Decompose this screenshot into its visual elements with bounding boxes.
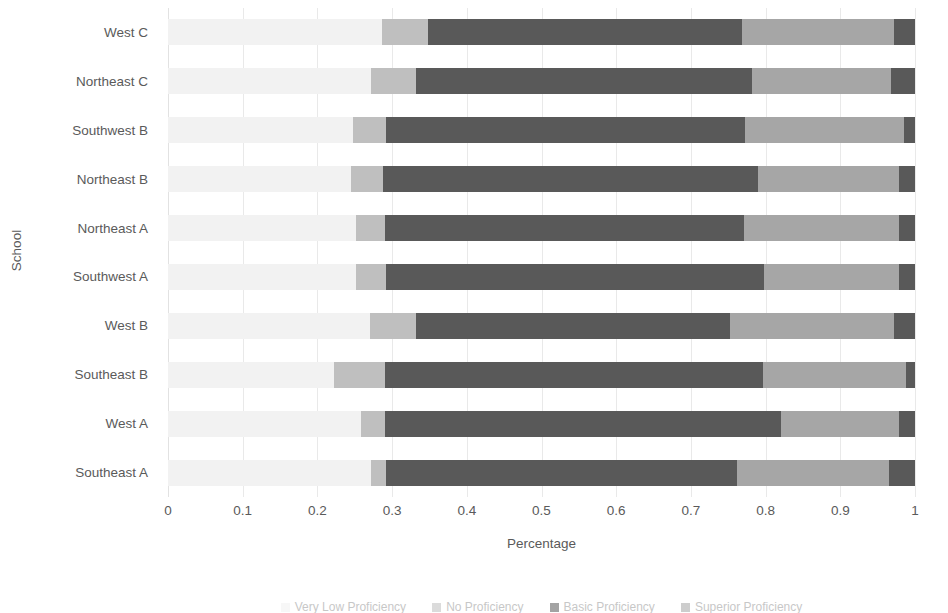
bar-track (168, 68, 915, 94)
bar-segment-3[interactable] (386, 264, 764, 290)
plot-area (168, 8, 915, 497)
bar-row[interactable] (168, 8, 915, 57)
x-axis-tick-label: 1 (911, 503, 919, 518)
y-axis-tick-label: Southwest B (72, 106, 148, 155)
bar-segment-2[interactable] (356, 264, 386, 290)
bar-segment-1[interactable] (168, 264, 356, 290)
bar-row[interactable] (168, 155, 915, 204)
bar-row[interactable] (168, 399, 915, 448)
bar-segment-1[interactable] (168, 166, 351, 192)
bar-track (168, 411, 915, 437)
x-axis-tick-label: 0.7 (682, 503, 701, 518)
x-axis-tick-label: 0.9 (831, 503, 850, 518)
y-axis-tick-label: Southwest A (73, 253, 148, 302)
legend-swatch-icon (681, 603, 690, 612)
x-axis-tick-label: 0.6 (607, 503, 626, 518)
bar-track (168, 362, 915, 388)
bar-row[interactable] (168, 448, 915, 497)
bar-segment-2[interactable] (353, 117, 386, 143)
legend-item[interactable]: Very Low Proficiency (281, 601, 406, 613)
y-axis-tick-label: Northeast B (77, 155, 148, 204)
x-axis-tick-label: 0.1 (233, 503, 252, 518)
bar-track (168, 460, 915, 486)
legend-label: No Proficiency (446, 601, 523, 613)
bar-segment-4[interactable] (758, 166, 898, 192)
y-axis-tick-label: Northeast C (76, 57, 148, 106)
bar-segment-2[interactable] (351, 166, 383, 192)
legend-swatch-icon (550, 603, 559, 612)
legend-swatch-icon (432, 603, 441, 612)
legend-label: Basic Proficiency (564, 601, 655, 613)
bar-segment-4[interactable] (764, 264, 898, 290)
chart-legend: Very Low ProficiencyNo ProficiencyBasic … (168, 601, 915, 613)
bar-segment-5[interactable] (894, 313, 915, 339)
bar-track (168, 19, 915, 45)
bar-segment-1[interactable] (168, 117, 353, 143)
bar-segment-4[interactable] (730, 313, 894, 339)
legend-item[interactable]: No Proficiency (432, 601, 523, 613)
bar-segment-2[interactable] (382, 19, 428, 45)
bar-segment-5[interactable] (891, 68, 915, 94)
bar-track (168, 313, 915, 339)
bar-segment-4[interactable] (752, 68, 891, 94)
bar-segment-2[interactable] (370, 313, 416, 339)
bar-segment-1[interactable] (168, 313, 370, 339)
bar-row[interactable] (168, 253, 915, 302)
bar-segment-4[interactable] (763, 362, 906, 388)
bar-segment-4[interactable] (737, 460, 889, 486)
bar-segment-1[interactable] (168, 215, 356, 241)
bar-rows (168, 8, 915, 497)
bar-segment-3[interactable] (416, 68, 752, 94)
bar-segment-5[interactable] (899, 166, 915, 192)
bar-segment-2[interactable] (334, 362, 385, 388)
y-axis-tick-label: Southeast A (75, 448, 148, 497)
bar-row[interactable] (168, 350, 915, 399)
bar-segment-5[interactable] (899, 215, 915, 241)
bar-segment-4[interactable] (742, 19, 894, 45)
bar-segment-2[interactable] (361, 411, 385, 437)
bar-segment-3[interactable] (385, 362, 764, 388)
bar-row[interactable] (168, 57, 915, 106)
bar-segment-1[interactable] (168, 460, 371, 486)
bar-segment-4[interactable] (781, 411, 899, 437)
bar-segment-2[interactable] (371, 68, 416, 94)
bar-segment-5[interactable] (899, 411, 915, 437)
bar-segment-5[interactable] (899, 264, 915, 290)
bar-track (168, 166, 915, 192)
bar-segment-2[interactable] (371, 460, 386, 486)
bar-segment-1[interactable] (168, 68, 371, 94)
y-axis-tick-label: Northeast A (77, 204, 148, 253)
bar-segment-3[interactable] (428, 19, 742, 45)
bar-segment-5[interactable] (894, 19, 915, 45)
bar-row[interactable] (168, 301, 915, 350)
bar-segment-5[interactable] (889, 460, 915, 486)
bar-segment-5[interactable] (904, 117, 915, 143)
bar-segment-3[interactable] (385, 411, 781, 437)
gridline-1 (915, 8, 916, 497)
y-axis-tick-label: West B (105, 301, 148, 350)
bar-segment-3[interactable] (386, 460, 737, 486)
bar-segment-3[interactable] (386, 117, 745, 143)
legend-item[interactable]: Superior Proficiency (681, 601, 802, 613)
legend-item[interactable]: Basic Proficiency (550, 601, 655, 613)
y-axis-tick-label: West C (104, 8, 148, 57)
bar-segment-2[interactable] (356, 215, 384, 241)
x-axis-tick-labels: 00.10.20.30.40.50.60.70.80.91 (168, 503, 915, 525)
bar-track (168, 215, 915, 241)
bar-row[interactable] (168, 106, 915, 155)
bar-segment-1[interactable] (168, 411, 361, 437)
bar-segment-1[interactable] (168, 362, 334, 388)
x-axis-tick-label: 0.8 (756, 503, 775, 518)
bar-segment-3[interactable] (385, 215, 744, 241)
bar-segment-5[interactable] (906, 362, 915, 388)
x-axis-tick-label: 0.5 (532, 503, 551, 518)
bar-segment-3[interactable] (416, 313, 730, 339)
x-axis-tick-label: 0.4 (457, 503, 476, 518)
bar-segment-4[interactable] (745, 117, 903, 143)
y-axis-tick-labels: West CNortheast CSouthwest BNortheast BN… (0, 8, 160, 497)
bar-segment-3[interactable] (383, 166, 758, 192)
bar-segment-1[interactable] (168, 19, 382, 45)
bar-row[interactable] (168, 204, 915, 253)
bar-segment-4[interactable] (744, 215, 899, 241)
y-axis-tick-label: West A (105, 399, 148, 448)
